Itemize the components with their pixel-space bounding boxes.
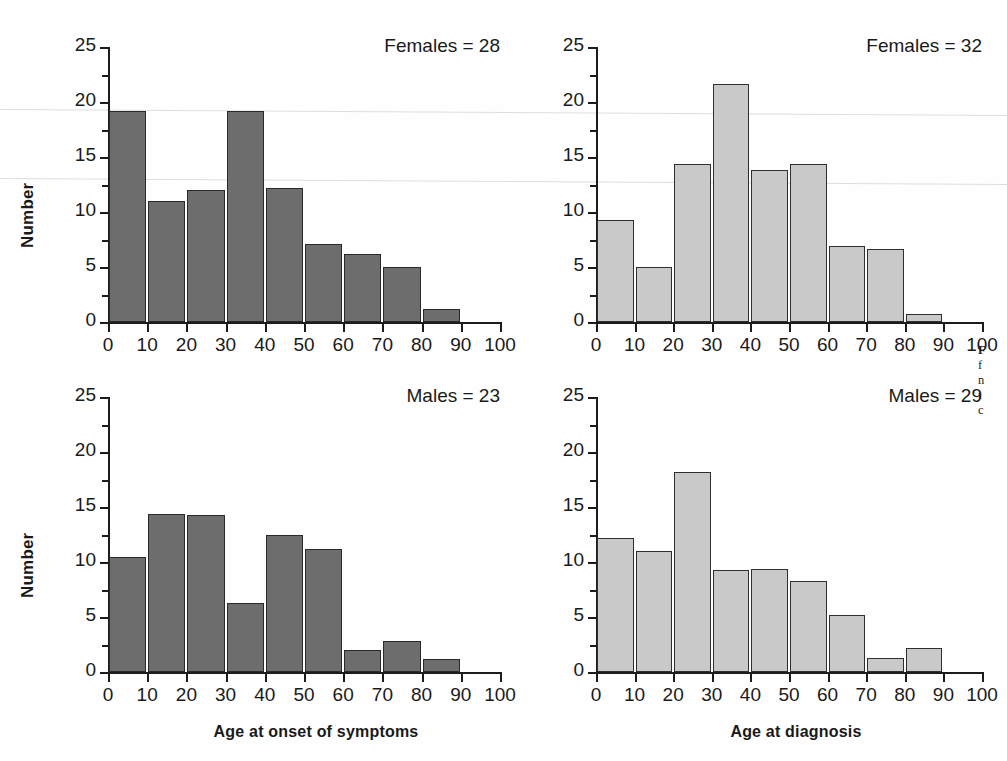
- y-axis-minor-tick: [102, 590, 109, 592]
- histogram-bar: [867, 658, 904, 672]
- histogram-bar: [148, 201, 185, 322]
- figure-caption-fragment: Ffntc: [978, 343, 1007, 418]
- panel-count-annotation: Females = 28: [320, 35, 500, 57]
- y-axis-tick-label: 25: [52, 384, 96, 406]
- y-axis-tick: [588, 562, 597, 564]
- y-axis-tick-label: 20: [52, 89, 96, 111]
- histogram-bar: [423, 309, 460, 322]
- x-axis-tick: [147, 674, 149, 682]
- y-axis-minor-tick: [102, 425, 109, 427]
- y-axis-minor-tick: [102, 185, 109, 187]
- x-axis-tick-label: 70: [360, 334, 404, 356]
- y-axis-minor-tick: [590, 535, 597, 537]
- y-axis-minor-tick: [590, 240, 597, 242]
- x-axis-tick-label: 40: [243, 684, 287, 706]
- x-axis-tick-label: 0: [86, 334, 130, 356]
- x-axis-tick: [186, 324, 188, 332]
- y-axis-tick: [588, 267, 597, 269]
- y-axis-minor-tick: [102, 75, 109, 77]
- x-axis-tick-label: 40: [728, 684, 772, 706]
- y-axis-tick-label: 5: [540, 604, 584, 626]
- x-axis-tick: [265, 674, 267, 682]
- y-axis-tick-label: 15: [52, 144, 96, 166]
- x-axis-tick: [635, 674, 637, 682]
- x-axis-tick: [982, 324, 984, 332]
- x-axis-tick-label: 50: [282, 684, 326, 706]
- y-axis-tick: [100, 102, 109, 104]
- histogram-bar: [383, 267, 420, 322]
- histogram-bar: [305, 244, 342, 322]
- caption-line: c: [978, 403, 1007, 418]
- histogram-bar: [423, 659, 460, 672]
- y-axis-tick: [100, 267, 109, 269]
- y-axis-tick-label: 15: [52, 494, 96, 516]
- x-axis-tick: [789, 324, 791, 332]
- histogram-bar: [187, 515, 224, 672]
- x-axis-tick-label: 0: [574, 334, 618, 356]
- caption-line: n: [978, 373, 1007, 388]
- y-axis-minor-tick: [102, 130, 109, 132]
- x-axis-tick: [461, 324, 463, 332]
- x-axis-tick: [226, 674, 228, 682]
- x-axis-tick-label: 90: [439, 684, 483, 706]
- histogram-bar: [305, 549, 342, 672]
- x-axis-tick-label: 10: [125, 334, 169, 356]
- figure-histogram-grid: 05101520250102030405060708090100Females …: [0, 0, 1007, 761]
- y-axis-minor-tick: [590, 645, 597, 647]
- histogram-bar: [674, 164, 711, 322]
- x-axis-tick-label: 80: [400, 334, 444, 356]
- x-axis-tick-label: 20: [651, 334, 695, 356]
- y-axis-tick: [588, 617, 597, 619]
- histogram-bar: [148, 514, 185, 672]
- histogram-bar: [751, 569, 788, 672]
- y-axis-tick: [100, 452, 109, 454]
- y-axis-tick-label: 15: [540, 494, 584, 516]
- y-axis-tick: [100, 617, 109, 619]
- x-axis-title-left: Age at onset of symptoms: [130, 723, 502, 741]
- y-axis-minor-tick: [590, 75, 597, 77]
- histogram-bar: [227, 603, 264, 672]
- histogram-bar: [636, 551, 673, 672]
- y-axis-minor-tick: [102, 295, 109, 297]
- y-axis-minor-tick: [102, 480, 109, 482]
- histogram-bar: [109, 111, 146, 322]
- y-axis-tick-label: 20: [52, 439, 96, 461]
- caption-line: t: [978, 388, 1007, 403]
- x-axis-tick-label: 70: [844, 684, 888, 706]
- y-axis-minor-tick: [590, 425, 597, 427]
- x-axis-tick-label: 60: [321, 334, 365, 356]
- y-axis-minor-tick: [590, 130, 597, 132]
- y-axis-tick-label: 20: [540, 439, 584, 461]
- x-axis-tick-label: 40: [243, 334, 287, 356]
- y-axis-tick-label: 25: [540, 384, 584, 406]
- y-axis-tick: [588, 212, 597, 214]
- x-axis-tick-label: 80: [883, 334, 927, 356]
- histogram-bar: [829, 246, 866, 322]
- histogram-bar: [713, 570, 750, 672]
- x-axis-tick-label: 20: [164, 684, 208, 706]
- histogram-bar: [227, 111, 264, 322]
- x-axis-tick-label: 30: [204, 334, 248, 356]
- x-axis-tick: [382, 324, 384, 332]
- x-axis-tick: [596, 674, 598, 682]
- x-axis-tick: [422, 674, 424, 682]
- histogram-bar: [597, 220, 634, 322]
- y-axis-minor-tick: [590, 590, 597, 592]
- x-axis-tick: [943, 324, 945, 332]
- y-axis-minor-tick: [590, 295, 597, 297]
- x-axis-tick-label: 10: [613, 684, 657, 706]
- x-axis-tick: [982, 674, 984, 682]
- histogram-bar: [790, 581, 827, 672]
- x-axis-tick: [596, 324, 598, 332]
- y-axis-tick-label: 0: [52, 659, 96, 681]
- x-axis-tick-label: 90: [439, 334, 483, 356]
- x-axis-tick-label: 80: [400, 684, 444, 706]
- x-axis-tick: [905, 324, 907, 332]
- y-axis-tick: [100, 397, 109, 399]
- y-axis-tick: [588, 102, 597, 104]
- y-axis-tick: [100, 47, 109, 49]
- y-axis-tick-label: 5: [52, 254, 96, 276]
- y-axis-tick: [588, 452, 597, 454]
- x-axis-tick: [673, 324, 675, 332]
- histogram-bar: [344, 650, 381, 672]
